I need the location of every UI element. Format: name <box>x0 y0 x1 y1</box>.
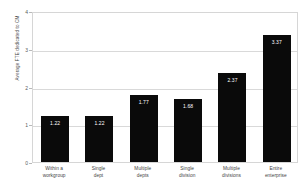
plot-area: 1.221.221.771.682.373.37 <box>32 12 298 163</box>
x-category-label-line: Single <box>165 166 209 173</box>
bar-slot: 1.22 <box>33 13 77 162</box>
x-category-label-line: Within a <box>32 166 76 173</box>
bar-slot: 2.37 <box>210 13 254 162</box>
bar-slot: 1.68 <box>166 13 210 162</box>
x-category-label: Singledept <box>76 166 120 179</box>
x-category-label-line: Entire <box>254 166 298 173</box>
x-axis-category-labels: Within aworkgroupSingledeptMultipledepts… <box>32 166 298 192</box>
bar: 1.22 <box>41 116 69 162</box>
y-tick-mark <box>29 50 32 51</box>
x-category-label-line: Single <box>76 166 120 173</box>
x-category-label-line: divisions <box>209 173 253 180</box>
x-category-label: Multipledepts <box>121 166 165 179</box>
bar-value-label: 3.37 <box>263 39 291 45</box>
y-tick-label: 0 <box>18 161 28 166</box>
bar-slot: 3.37 <box>255 13 299 162</box>
bar-value-label: 1.22 <box>41 120 69 126</box>
bar: 1.68 <box>174 99 202 162</box>
y-tick-mark <box>29 88 32 89</box>
bar-value-label: 1.77 <box>130 99 158 105</box>
y-tick-mark <box>29 125 32 126</box>
x-category-label-line: Multiple <box>121 166 165 173</box>
x-category-label: Entireenterprise <box>254 166 298 179</box>
x-category-label-line: division <box>165 173 209 180</box>
x-category-label: Singledivision <box>165 166 209 179</box>
y-tick-label: 3 <box>18 47 28 52</box>
bar-slot: 1.77 <box>122 13 166 162</box>
bar-value-label: 1.22 <box>85 120 113 126</box>
bar-series: 1.221.221.771.682.373.37 <box>33 13 297 162</box>
y-axis-tick-labels: 01234 <box>18 12 28 163</box>
y-tick-mark <box>29 12 32 13</box>
bar: 2.37 <box>218 73 246 162</box>
bar-value-label: 2.37 <box>218 77 246 83</box>
x-category-label-line: workgroup <box>32 173 76 180</box>
bar: 1.22 <box>85 116 113 162</box>
x-category-label: Within aworkgroup <box>32 166 76 179</box>
bar-slot: 1.22 <box>77 13 121 162</box>
x-category-label: Multipledivisions <box>209 166 253 179</box>
x-category-label-line: enterprise <box>254 173 298 180</box>
y-tick-label: 2 <box>18 85 28 90</box>
y-tick-mark <box>29 163 32 164</box>
bar: 3.37 <box>263 35 291 162</box>
bar-chart: Average FTE dedicated to CM 01234 1.221.… <box>0 0 308 195</box>
y-tick-label: 4 <box>18 10 28 15</box>
bar: 1.77 <box>130 95 158 162</box>
x-category-label-line: depts <box>121 173 165 180</box>
x-category-label-line: Multiple <box>209 166 253 173</box>
bar-value-label: 1.68 <box>174 103 202 109</box>
y-tick-label: 1 <box>18 123 28 128</box>
x-category-label-line: dept <box>76 173 120 180</box>
